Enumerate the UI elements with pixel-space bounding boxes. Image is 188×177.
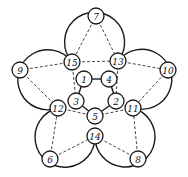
node-8: 8: [130, 151, 146, 167]
node-10: 10: [160, 62, 176, 78]
node-label: 11: [127, 104, 138, 114]
node-1: 1: [76, 71, 92, 87]
node-6: 6: [42, 151, 58, 167]
node-9: 9: [12, 62, 28, 78]
node-label: 1: [81, 75, 87, 85]
node-11: 11: [125, 100, 141, 116]
node-7: 7: [88, 8, 104, 24]
node-5: 5: [87, 108, 103, 124]
node-label: 5: [92, 112, 98, 122]
node-label: 12: [52, 104, 64, 114]
node-label: 4: [105, 75, 112, 85]
node-label: 15: [66, 58, 78, 68]
node-4: 4: [101, 71, 117, 87]
node-label: 7: [93, 12, 99, 22]
pentagram-diagram: 715139101431221151468: [0, 0, 188, 177]
node-15: 15: [64, 54, 80, 70]
node-label: 6: [47, 155, 53, 165]
diagram-canvas: 715139101431221151468: [0, 0, 188, 177]
node-label: 2: [112, 97, 119, 107]
node-14: 14: [87, 128, 103, 144]
node-label: 13: [112, 57, 124, 67]
node-label: 9: [17, 66, 23, 76]
node-12: 12: [50, 100, 66, 116]
node-label: 8: [135, 155, 141, 165]
node-label: 14: [89, 132, 101, 142]
node-label: 10: [162, 66, 174, 76]
petal-arc-left: [18, 50, 72, 110]
node-2: 2: [108, 93, 124, 109]
node-label: 3: [73, 97, 79, 107]
node-13: 13: [110, 53, 126, 69]
node-3: 3: [68, 93, 84, 109]
nodes: 715139101431221151468: [12, 8, 176, 167]
